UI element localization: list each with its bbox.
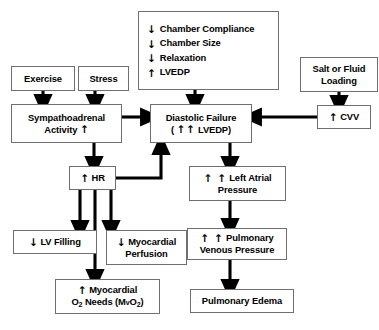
- lvedp-row: ↑ LVEDP: [147, 65, 190, 80]
- latrial-line1-row: ↑ ↑ Left Atrial: [203, 172, 271, 184]
- myocardial-o2-needs-box[interactable]: ↑ Myocardial O2 Needs (MvO2): [55, 279, 160, 314]
- diastolic-line2-row: ( ↑↑ LVEDP): [171, 124, 231, 136]
- salt-or-fluid-loading-box[interactable]: Salt or Fluid Loading: [300, 57, 378, 92]
- salt-line1-label: Salt or Fluid: [313, 63, 366, 75]
- exercise-label: Exercise: [24, 73, 62, 85]
- down-arrow-icon: ↓: [147, 24, 156, 35]
- pvp-line1-label: Pulmonary: [226, 232, 274, 243]
- hr-label: HR: [91, 172, 104, 183]
- down-arrow-icon: ↓: [147, 53, 156, 64]
- paren-close-label: ): [141, 296, 144, 307]
- pvp-line1-row: ↑ ↑ Pulmonary: [200, 232, 273, 244]
- up-arrow-icon: ↑: [147, 68, 156, 79]
- sympatho-line2-row: Activity ↑: [44, 124, 88, 136]
- chamber-compliance-label: Chamber Compliance: [160, 23, 255, 35]
- cvv-label: CVV: [340, 111, 359, 122]
- o2-line1-row: ↑ Myocardial: [78, 284, 137, 296]
- up-arrow-icon: ↑: [329, 111, 338, 123]
- o2-line2-row: O2 Needs (MvO2): [71, 296, 143, 309]
- o2-line1-label: Myocardial: [89, 284, 137, 295]
- pvp-line2-label: Venous Pressure: [200, 244, 275, 256]
- o2-subscript-1: 2: [79, 301, 83, 308]
- up-arrow-icon: ↑ ↑: [200, 232, 223, 244]
- o2-subscript-2: 2: [137, 301, 141, 308]
- down-arrow-icon: ↓: [29, 236, 38, 248]
- diastolic-line1-label: Diastolic Failure: [166, 112, 237, 124]
- myoperf-line1-row: ↓ Myocardial: [117, 236, 176, 248]
- sympatho-line2-label: Activity: [44, 124, 77, 135]
- sympatho-line1-label: Sympathoadrenal: [28, 112, 105, 124]
- paren-open-label: (: [171, 124, 174, 135]
- chamber-size-row: ↓ Chamber Size: [147, 36, 221, 51]
- pulmonary-venous-pressure-box[interactable]: ↑ ↑ Pulmonary Venous Pressure: [187, 228, 287, 260]
- diastolic-lvedp-label: LVEDP): [198, 124, 231, 135]
- cvv-box[interactable]: ↑ CVV: [317, 105, 371, 129]
- lv-filling-label: LV Filling: [40, 236, 81, 247]
- relaxation-row: ↓ Relaxation: [147, 51, 206, 66]
- chamber-compliance-row: ↓ Chamber Compliance: [147, 22, 254, 37]
- cvv-row: ↑ CVV: [329, 111, 359, 123]
- diastolic-failure-box[interactable]: Diastolic Failure ( ↑↑ LVEDP): [150, 104, 252, 143]
- chamber-size-label: Chamber Size: [160, 37, 221, 49]
- exercise-box[interactable]: Exercise: [11, 66, 75, 91]
- myoperf-line1-label: Myocardial: [128, 236, 176, 247]
- mvo2-o-label: O: [130, 296, 137, 307]
- lv-filling-box[interactable]: ↓ LV Filling: [13, 230, 97, 254]
- lv-filling-row: ↓ LV Filling: [29, 236, 81, 248]
- pulmonary-edema-box[interactable]: Pulmonary Edema: [190, 289, 294, 313]
- edema-label: Pulmonary Edema: [202, 295, 282, 307]
- edge-hr-to-diastolic: [116, 145, 161, 178]
- left-atrial-pressure-box[interactable]: ↑ ↑ Left Atrial Pressure: [189, 166, 286, 201]
- salt-line2-label: Loading: [321, 75, 357, 87]
- myocardial-perfusion-box[interactable]: ↓ Myocardial Perfusion: [106, 230, 187, 265]
- diagram-canvas: Exercise Stress ↓ Chamber Compliance ↓ C…: [0, 0, 379, 330]
- up-arrow-icon: ↑↑: [176, 123, 195, 135]
- sympathoadrenal-activity-box[interactable]: Sympathoadrenal Activity ↑: [11, 104, 122, 143]
- up-arrow-icon: ↑: [80, 172, 89, 184]
- lvedp-label: LVEDP: [160, 66, 190, 78]
- latrial-line1-label: Left Atrial: [229, 172, 271, 183]
- hr-row: ↑ HR: [80, 172, 105, 184]
- myoperf-line2-label: Perfusion: [125, 248, 167, 260]
- chamber-properties-box[interactable]: ↓ Chamber Compliance ↓ Chamber Size ↓ Re…: [138, 11, 279, 90]
- stress-box[interactable]: Stress: [78, 66, 129, 91]
- down-arrow-icon: ↓: [147, 39, 156, 50]
- latrial-line2-label: Pressure: [218, 184, 257, 196]
- up-arrow-icon: ↑ ↑: [203, 172, 226, 184]
- o2-symbol-label: O: [71, 296, 78, 307]
- up-arrow-icon: ↑: [78, 284, 87, 296]
- down-arrow-icon: ↓: [117, 236, 126, 248]
- relaxation-label: Relaxation: [160, 52, 206, 64]
- o2-needs-label: Needs (M: [85, 296, 126, 307]
- up-arrow-icon: ↑: [80, 123, 89, 135]
- heart-rate-box[interactable]: ↑ HR: [69, 166, 116, 190]
- stress-label: Stress: [89, 73, 117, 85]
